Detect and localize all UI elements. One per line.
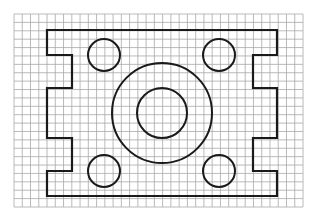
plate-outline	[47, 30, 277, 196]
hole-top-right	[203, 39, 235, 71]
hole-top-left	[88, 39, 120, 71]
technical-drawing	[0, 0, 313, 221]
grid-paper	[14, 14, 303, 207]
